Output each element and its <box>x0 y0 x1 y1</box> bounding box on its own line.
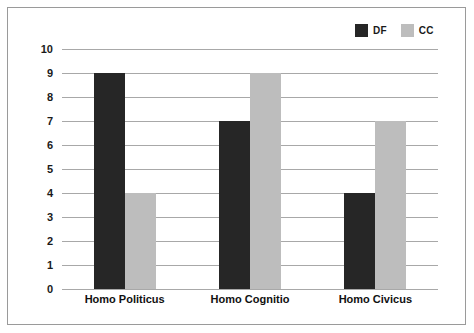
legend-item-df[interactable]: DF <box>355 24 387 37</box>
plot-area: 109876543210Homo PoliticusHomo CognitioH… <box>62 49 438 289</box>
legend-swatch-df <box>355 24 368 37</box>
y-axis-tick-label: 10 <box>41 44 53 55</box>
x-axis-category-label: Homo Politicus <box>85 294 165 305</box>
legend-label-df: DF <box>373 26 387 36</box>
legend-swatch-cc <box>401 24 414 37</box>
bar-cc-0[interactable] <box>125 193 156 289</box>
bar-cc-1[interactable] <box>250 73 281 289</box>
y-axis-tick-label: 9 <box>47 68 53 79</box>
bar-cc-2[interactable] <box>375 121 406 289</box>
bar-df-0[interactable] <box>94 73 125 289</box>
y-axis-tick-label: 3 <box>47 212 53 223</box>
y-axis-tick-label: 6 <box>47 140 53 151</box>
x-axis-category-label: Homo Cognitio <box>211 294 290 305</box>
y-axis-tick-label: 8 <box>47 92 53 103</box>
legend-item-cc[interactable]: CC <box>401 24 434 37</box>
legend-label-cc: CC <box>419 26 434 36</box>
y-axis-tick-label: 0 <box>47 284 53 295</box>
chart-figure: DFCC 109876543210Homo PoliticusHomo Cogn… <box>0 0 474 333</box>
bar-df-1[interactable] <box>219 121 250 289</box>
bar-df-2[interactable] <box>344 193 375 289</box>
gridline <box>62 289 438 290</box>
gridline <box>62 49 438 50</box>
chart-legend: DFCC <box>355 24 434 37</box>
y-axis-tick-label: 5 <box>47 164 53 175</box>
y-axis-tick-label: 4 <box>47 188 53 199</box>
y-axis-tick-label: 7 <box>47 116 53 127</box>
y-axis-tick-label: 1 <box>47 260 53 271</box>
x-axis-category-label: Homo Civicus <box>339 294 412 305</box>
y-axis-tick-label: 2 <box>47 236 53 247</box>
